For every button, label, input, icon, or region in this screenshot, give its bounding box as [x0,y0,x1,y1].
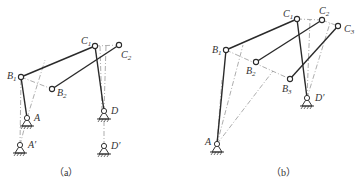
crank-link-ab1 [21,77,27,118]
label-c3: C3 [344,23,355,36]
coupler-link-b3c3 [290,26,338,79]
crank-link-ab1 [217,50,226,144]
coupler-link-b1c1 [21,46,95,77]
label-b3: B3 [282,83,292,96]
label-c1: C1 [283,8,293,21]
label-d: D [110,105,119,116]
joint-c3 [335,23,340,28]
construction-line [95,45,119,46]
label-b2: B2 [57,87,67,100]
construction-line [104,46,106,111]
figure-a: B1 B2 C1 C2 A A′ D D′ （a） [7,35,132,178]
joint-b1 [223,47,228,52]
joint-b2 [253,59,258,64]
joint-c1 [294,16,299,21]
label-b2: B2 [246,65,256,78]
coupler-link-b1c1 [226,19,297,50]
ground-pivot-a [210,141,224,155]
label-c1: C1 [81,35,91,48]
label-d-prime: D′ [314,92,325,103]
joint-b3 [287,76,292,81]
construction-line [226,50,290,79]
figure-b: B1 B2 B3 C1 C2 C3 A D′ （b） [204,5,355,178]
label-a: A [204,136,212,147]
ground-pivot-d-prime [97,143,111,157]
label-a-prime: A′ [27,139,37,150]
label-c2: C2 [121,49,132,62]
ground-pivot-d-prime [300,95,314,109]
linkage-diagrams: B1 B2 C1 C2 A A′ D D′ （a） [0,0,363,185]
label-b1: B1 [212,44,222,57]
ground-pivot-d [97,108,111,122]
caption-b: （b） [271,167,296,178]
label-d-prime: D′ [110,140,121,151]
ground-pivot-a [20,115,34,129]
joint-c2 [116,42,121,47]
joint-c1 [92,43,97,48]
construction-line [307,23,330,98]
label-c2: C2 [319,5,330,18]
label-a: A [33,112,41,123]
joint-b2 [49,86,54,91]
caption-a: （a） [54,167,78,178]
construction-line [217,71,273,144]
label-b1: B1 [7,70,17,83]
construction-line [217,45,243,144]
coupler-link-b2c2 [52,45,119,89]
ground-pivot-a-prime [13,142,27,156]
construction-line [297,19,322,20]
joint-c2 [319,17,324,22]
coupler-link-b2c2 [256,20,322,62]
joint-b1 [18,74,23,79]
construction-line [20,77,21,145]
